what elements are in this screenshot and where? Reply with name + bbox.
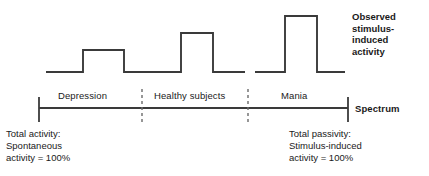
segment-label-healthy-subjects: Healthy subjects <box>154 90 225 102</box>
endpoint-note-right: Total passivity: Stimulus-induced activi… <box>289 128 362 165</box>
y-axis-label-line-1: Observed <box>352 11 396 23</box>
endpoint-note-right-line-2: Stimulus-induced <box>289 140 362 152</box>
waveform-mania <box>255 16 345 72</box>
endpoint-note-right-line-3: activity = 100% <box>289 152 362 164</box>
endpoint-note-left-line-3: activity = 100% <box>6 152 70 164</box>
waveform-depression-path <box>46 50 158 72</box>
segment-label-depression: Depression <box>58 90 107 102</box>
y-axis-label: Observed stimulus- induced activity <box>352 11 396 57</box>
waveform-healthy-subjects-path <box>153 33 245 72</box>
waveform-healthy-subjects <box>153 33 245 72</box>
endpoint-note-right-line-1: Total passivity: <box>289 128 362 140</box>
spectrum-axis-label: Spectrum <box>355 103 400 115</box>
endpoint-note-left-line-2: Spontaneous <box>6 140 70 152</box>
y-axis-label-line-4: activity <box>352 46 396 58</box>
y-axis-label-line-2: stimulus- <box>352 23 396 35</box>
y-axis-label-line-3: induced <box>352 34 396 46</box>
waveform-depression <box>46 50 158 72</box>
waveform-mania-path <box>255 16 345 72</box>
spectrum-activity-diagram: Observed stimulus- induced activity Depr… <box>0 0 429 176</box>
segment-label-mania: Mania <box>281 90 307 102</box>
endpoint-note-left-line-1: Total activity: <box>6 128 70 140</box>
endpoint-note-left: Total activity: Spontaneous activity = 1… <box>6 128 70 165</box>
